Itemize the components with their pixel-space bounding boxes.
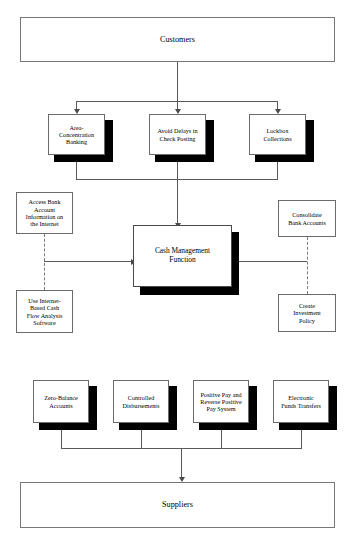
node-customers-label: Customers — [21, 35, 334, 45]
node-zero-balance-accounts[interactable]: Zero-Balance Accounts — [33, 380, 89, 423]
node-create-investment-policy[interactable]: Create Investment Policy — [278, 294, 336, 332]
connector-up-zero-balance — [61, 430, 62, 449]
connector-up-lockbox — [277, 162, 278, 180]
node-consolidate-bank-accounts-label: Consolidate Bank Accounts — [279, 211, 335, 226]
node-positive-pay-reverse-positive-pay[interactable]: Positive Pay and Reverse Positive Pay Sy… — [193, 380, 249, 423]
connector-center-stem — [177, 155, 178, 225]
connector-left-into-center — [44, 261, 133, 262]
connector-up-electronic-funds — [301, 430, 302, 449]
node-cash-management-function[interactable]: Cash Management Function — [133, 225, 232, 287]
node-controlled-disbursements-label: Controlled Disbursements — [114, 394, 168, 409]
connector-up-controlled-disbursements — [141, 430, 142, 449]
node-electronic-funds-transfers-label: Electronic Funds Transfers — [274, 394, 328, 409]
node-area-concentration-banking[interactable]: Area- Concentration Banking — [48, 114, 105, 155]
node-electronic-funds-transfers[interactable]: Electronic Funds Transfers — [273, 380, 329, 423]
node-access-bank-account-information[interactable]: Access Bank Account Information on the I… — [16, 192, 73, 234]
connector-center-to-right — [235, 261, 307, 262]
node-cash-management-function-label: Cash Management Function — [134, 247, 231, 264]
node-internet-based-cash-flow-analysis[interactable]: Use Internet- Based Cash Flow Analysis S… — [16, 290, 73, 333]
connector-left-dashed — [44, 234, 45, 290]
node-suppliers-label: Suppliers — [21, 500, 334, 510]
connector-suppliers-stem — [181, 448, 182, 479]
node-zero-balance-accounts-label: Zero-Balance Accounts — [34, 394, 88, 409]
node-suppliers[interactable]: Suppliers — [20, 482, 335, 528]
node-lockbox-collections-label: Lockbox Collections — [250, 127, 305, 142]
node-consolidate-bank-accounts[interactable]: Consolidate Bank Accounts — [278, 200, 336, 237]
node-controlled-disbursements[interactable]: Controlled Disbursements — [113, 380, 169, 423]
node-internet-based-cash-flow-analysis-label: Use Internet- Based Cash Flow Analysis S… — [17, 297, 72, 326]
node-area-concentration-banking-label: Area- Concentration Banking — [49, 124, 104, 146]
node-create-investment-policy-label: Create Investment Policy — [279, 302, 335, 324]
connector-customers-stem — [177, 62, 178, 102]
connector-right-dashed — [307, 237, 308, 294]
node-positive-pay-reverse-positive-pay-label: Positive Pay and Reverse Positive Pay Sy… — [194, 391, 248, 413]
node-lockbox-collections[interactable]: Lockbox Collections — [249, 114, 306, 155]
connector-up-positive-pay — [221, 430, 222, 449]
flowchart-canvas: Customers Area- Concentration Banking Av… — [0, 0, 354, 544]
node-access-bank-account-information-label: Access Bank Account Information on the I… — [17, 198, 72, 227]
node-avoid-delays-in-check-posting[interactable]: Avoid Delays in Check Posting — [149, 114, 206, 155]
node-customers[interactable]: Customers — [20, 17, 335, 62]
node-avoid-delays-in-check-posting-label: Avoid Delays in Check Posting — [150, 127, 205, 142]
connector-up-area-concentration — [76, 162, 77, 180]
